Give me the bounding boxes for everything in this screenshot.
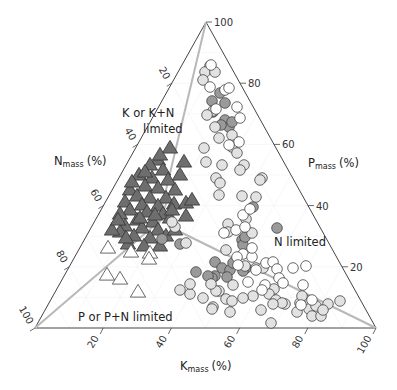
- circle-marker: [217, 160, 228, 171]
- circle-marker: [228, 280, 239, 291]
- circle-marker: [296, 300, 307, 311]
- circle-marker: [219, 228, 230, 239]
- circle-marker: [335, 296, 346, 307]
- region-label-p-limited: P or P+N limited: [78, 310, 173, 324]
- circle-marker: [215, 178, 226, 189]
- circle-marker: [198, 293, 209, 304]
- circle-marker: [206, 60, 217, 71]
- circle-marker: [307, 295, 318, 306]
- region-label-k-limited-line1: K or K+N: [122, 106, 174, 120]
- tick-label-n: 60: [88, 187, 104, 204]
- triangle-marker: [112, 271, 127, 284]
- circle-marker: [232, 102, 243, 113]
- data-points: [99, 60, 345, 329]
- triangle-marker: [176, 154, 191, 167]
- circle-marker: [201, 157, 212, 168]
- circle-marker: [233, 260, 244, 271]
- tick-k: [237, 328, 240, 334]
- circle-marker: [243, 277, 254, 288]
- tick-label-p: 100: [214, 17, 233, 28]
- circle-marker: [191, 267, 202, 278]
- circle-marker: [237, 191, 248, 202]
- circle-marker: [157, 234, 168, 245]
- circle-marker: [234, 137, 245, 148]
- circle-marker: [318, 305, 329, 316]
- circle-marker: [232, 148, 243, 159]
- circle-marker: [206, 279, 217, 290]
- circle-marker: [240, 222, 251, 233]
- circle-marker: [224, 140, 235, 151]
- circle-marker: [251, 192, 262, 203]
- circle-marker: [301, 261, 312, 272]
- circle-marker: [288, 263, 299, 274]
- tick-label-n: 20: [157, 65, 173, 82]
- region-label-k-limited-line2: limited: [143, 122, 183, 136]
- region-label-n-limited: N limited: [274, 235, 326, 249]
- circle-marker: [210, 122, 221, 133]
- circle-marker: [185, 289, 196, 300]
- circle-marker: [255, 175, 266, 186]
- tick-label-n: 40: [123, 126, 139, 143]
- circle-marker: [224, 83, 235, 94]
- circle-marker: [181, 238, 192, 249]
- tick-k: [100, 328, 103, 334]
- circle-marker: [227, 296, 238, 307]
- circle-marker: [214, 190, 225, 201]
- triangle-marker: [178, 208, 193, 221]
- triangle-marker: [130, 284, 145, 297]
- tick-label-p: 80: [248, 78, 261, 89]
- tick-label-k: 40: [153, 334, 169, 351]
- axis-title-n: Nmass(%): [54, 154, 107, 169]
- circle-marker: [251, 265, 262, 276]
- tick-k: [305, 328, 308, 334]
- circle-marker: [266, 318, 277, 329]
- circle-marker: [248, 291, 259, 302]
- tick-label-p: 60: [282, 139, 295, 150]
- axis-title-p: Pmass(%): [308, 156, 359, 171]
- circle-marker: [256, 305, 267, 316]
- circle-marker: [278, 278, 289, 289]
- circle-marker: [167, 217, 178, 228]
- circle-marker: [247, 243, 258, 254]
- circle-marker: [214, 133, 225, 144]
- tick-label-p: 20: [350, 262, 363, 273]
- ternary-chart: 202020404040606060808080100100100 K or K…: [0, 0, 397, 390]
- circle-marker: [211, 104, 222, 115]
- series-p: [99, 240, 157, 297]
- circle-marker: [272, 223, 283, 234]
- tick-k: [168, 328, 171, 334]
- circle-marker: [268, 299, 279, 310]
- circle-marker: [225, 307, 236, 318]
- axis-title-k: Kmass(%): [180, 359, 231, 374]
- triangle-marker: [100, 240, 115, 253]
- circle-marker: [257, 285, 268, 296]
- circle-marker: [205, 82, 216, 93]
- tick-k: [373, 328, 376, 334]
- tick-label-k: 20: [85, 334, 101, 351]
- circle-marker: [207, 304, 218, 315]
- tick-label-k: 100: [355, 334, 374, 356]
- circle-marker: [245, 204, 256, 215]
- circle-marker: [238, 293, 249, 304]
- tick-label-n: 100: [17, 304, 36, 326]
- boundary-line: [168, 226, 376, 328]
- tick-label-p: 40: [316, 201, 329, 212]
- circle-marker: [185, 279, 196, 290]
- tick-n: [30, 328, 35, 331]
- tick-label-k: 60: [221, 334, 237, 351]
- circle-marker: [202, 110, 213, 121]
- circle-marker: [221, 245, 232, 256]
- tick-label-k: 80: [290, 334, 306, 351]
- circle-marker: [199, 143, 210, 154]
- circle-marker: [235, 165, 246, 176]
- circle-marker: [220, 98, 231, 109]
- circle-marker: [175, 285, 186, 296]
- tick-label-n: 80: [54, 248, 70, 265]
- circle-marker: [298, 280, 309, 291]
- circle-marker: [235, 113, 246, 124]
